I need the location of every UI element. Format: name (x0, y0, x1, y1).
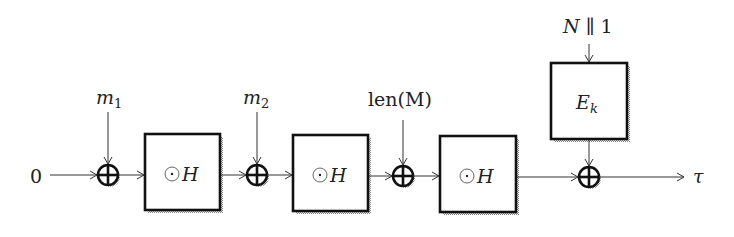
hash-label-2: H (329, 164, 347, 186)
block-diagram: 0 m1 H m2 H len (0, 0, 734, 237)
hash-label-3: H (476, 165, 494, 187)
encryption-block: Ek (551, 63, 630, 142)
hash-label-1: H (181, 163, 199, 185)
nonce-input-label: N ∥ 1 (562, 15, 613, 37)
xor-node-2 (247, 165, 269, 187)
xor-node-4 (579, 167, 601, 189)
input-m2-label: m2 (243, 86, 269, 111)
input-zero-label: 0 (30, 165, 42, 187)
xor-node-1 (98, 165, 120, 187)
hash-block-2: H (293, 135, 371, 214)
input-len-label: len(M) (368, 88, 432, 110)
xor-node-3 (393, 166, 415, 188)
input-m1-label: m1 (96, 86, 122, 111)
hash-block-3: H (440, 136, 519, 215)
hash-block-1: H (145, 134, 223, 213)
output-tau-label: τ (693, 165, 704, 187)
